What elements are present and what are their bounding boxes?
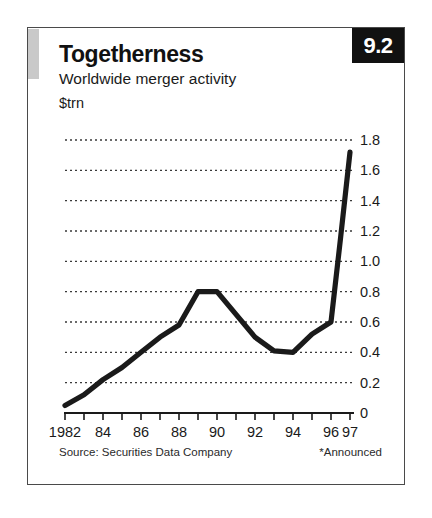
y-axis-tick-label: 0.4 bbox=[360, 344, 380, 360]
x-axis-tick-label: 86 bbox=[133, 424, 149, 440]
x-axis-tick-label: 88 bbox=[171, 424, 187, 440]
y-axis-tick-label: 0.8 bbox=[360, 284, 380, 300]
x-axis-tick-label: 92 bbox=[247, 424, 263, 440]
x-axis-tick-label: 96 bbox=[323, 424, 339, 440]
data-line bbox=[65, 152, 350, 405]
x-axis-tick-label: 94 bbox=[285, 424, 301, 440]
footnote-announced: *Announced bbox=[319, 446, 382, 458]
y-axis-tick-label: 0.6 bbox=[360, 314, 380, 330]
y-axis-tick-label: 1.4 bbox=[360, 193, 380, 209]
y-axis-tick-label: 0.2 bbox=[360, 375, 380, 391]
x-axis-tick-label: 90 bbox=[209, 424, 225, 440]
y-axis-tick-label: 1.6 bbox=[360, 162, 380, 178]
y-axis-tick-label: 1.8 bbox=[360, 132, 380, 148]
x-axis-tick-label: 1982 bbox=[49, 424, 81, 440]
y-axis-tick-label: 0 bbox=[360, 405, 368, 421]
x-axis-tick-label: 84 bbox=[95, 424, 111, 440]
line-chart-svg: 1.81.61.41.21.00.80.60.40.20198284868890… bbox=[28, 28, 406, 486]
y-axis-tick-label: 1.0 bbox=[360, 253, 380, 269]
chart-card: 9.2 Togetherness Worldwide merger activi… bbox=[27, 27, 405, 485]
source-note: Source: Securities Data Company bbox=[59, 446, 232, 458]
y-axis-tick-label: 1.2 bbox=[360, 223, 380, 239]
x-axis-tick-label: 97 bbox=[342, 424, 358, 440]
chart-plot-area: 1.81.61.41.21.00.80.60.40.20198284868890… bbox=[28, 28, 406, 486]
